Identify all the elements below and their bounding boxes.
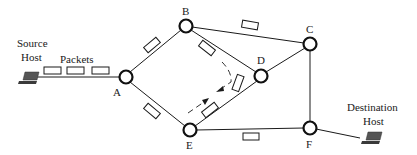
packet-a-e	[144, 103, 161, 119]
router-d	[255, 70, 268, 83]
packet-e-f	[243, 133, 259, 140]
packet-source-a-2	[67, 67, 84, 74]
destination-laptop-icon	[361, 132, 382, 144]
node-labels: A B C D E F	[113, 5, 313, 151]
network-diagram: A B C D E F Source Host Packets Destinat…	[0, 0, 417, 155]
node-label-d: D	[257, 54, 265, 66]
router-a	[120, 71, 133, 84]
destination-host-label-line2: Host	[363, 115, 384, 127]
node-label-e: E	[186, 139, 193, 151]
packet-source-a-1	[44, 67, 61, 74]
router-c	[304, 38, 317, 51]
packets	[44, 20, 259, 140]
packet-a-b	[144, 37, 161, 53]
routers	[120, 20, 317, 137]
node-label-b: B	[182, 5, 189, 17]
packet-b-d	[199, 40, 216, 55]
link-f-destination	[316, 129, 360, 138]
router-b	[180, 20, 193, 33]
packet-d-e-1	[232, 74, 244, 91]
destination-host-label-line1: Destination	[347, 101, 398, 113]
packet-source-a-3	[92, 67, 109, 74]
node-label-f: F	[306, 138, 312, 150]
link-b-c	[192, 27, 304, 43]
link-e-f	[196, 128, 304, 130]
link-a-b	[130, 30, 181, 72]
arrowhead-up-icon	[202, 98, 209, 105]
link-a-e	[130, 82, 185, 126]
router-f	[304, 122, 317, 135]
router-e	[184, 124, 197, 137]
node-label-a: A	[113, 86, 121, 98]
node-label-c: C	[306, 23, 313, 35]
destination-host: Destination Host	[347, 101, 398, 144]
dashed-route-b-d	[222, 62, 231, 88]
dashed-route-e-up	[188, 102, 204, 113]
source-host-label-line1: Source	[17, 37, 48, 49]
packets-label: Packets	[60, 53, 94, 65]
link-b-d	[191, 30, 256, 72]
packet-b-c	[242, 20, 259, 30]
source-host-label-line2: Host	[21, 51, 42, 63]
link-c-d	[266, 48, 305, 72]
source-laptop-icon	[18, 72, 39, 84]
arrowhead-down-icon	[216, 86, 224, 92]
